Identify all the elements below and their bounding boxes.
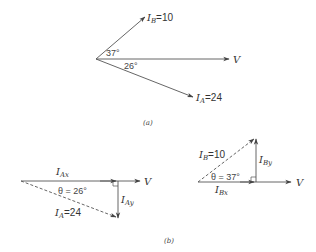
right-angle-mark	[251, 177, 256, 182]
figure-b-left: IAx θ = 26° IAy IA=24 V	[21, 166, 153, 220]
figure-a: 37° 26° IB=10 V IA=24 (a)	[96, 12, 242, 127]
ia-label: IA=24	[195, 92, 222, 105]
ib-hyp-label: IB=10	[198, 149, 226, 162]
iby-label: IBy	[258, 154, 273, 167]
iax-label: IAx	[55, 166, 69, 179]
angle-26-label: 26°	[124, 61, 138, 71]
theta-37-label: θ = 37°	[211, 172, 240, 182]
ia-hyp-label: IA=24	[54, 207, 81, 220]
iay-label: IAy	[120, 194, 135, 207]
v-label-b-right: V	[296, 177, 305, 188]
phasor-diagram: 37° 26° IB=10 V IA=24 (a) IAx θ = 26° IA…	[0, 0, 316, 252]
right-angle-mark	[113, 181, 118, 186]
vector-ib	[96, 17, 145, 59]
caption-a: (a)	[143, 119, 153, 127]
ibx-label: IBx	[214, 184, 228, 197]
v-label: V	[233, 54, 242, 65]
v-label-b-left: V	[144, 176, 153, 187]
figure-b-right: IB=10 IBy θ = 37° IBx V	[198, 139, 305, 197]
angle-37-label: 37°	[106, 48, 120, 58]
vector-ia	[96, 59, 193, 97]
theta-26-label: θ = 26°	[58, 186, 87, 196]
ib-label: IB=10	[146, 12, 174, 25]
caption-b: (b)	[164, 237, 174, 245]
